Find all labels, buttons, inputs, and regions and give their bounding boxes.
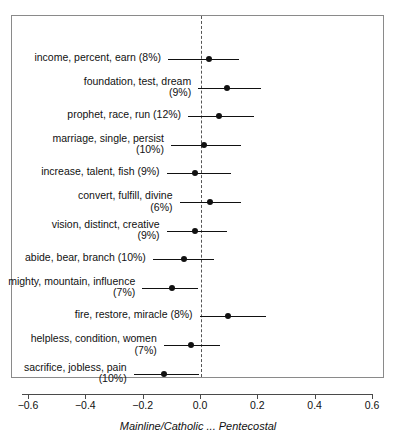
row-label: increase, talent, fish (9%) — [41, 167, 159, 179]
confidence-interval-line — [200, 316, 267, 317]
x-tick-label: 0.0 — [193, 399, 208, 411]
row-label: foundation, test, dream (9%) — [84, 75, 191, 98]
plot-area — [11, 15, 384, 378]
row-label: abide, bear, branch (10%) — [25, 252, 146, 264]
x-axis-title: Mainline/Catholic ... Pentecostal — [0, 420, 396, 432]
row-label: marriage, single, persist (10%) — [52, 132, 163, 155]
point-estimate-marker — [169, 285, 175, 291]
row-label: mighty, mountain, influence (7%) — [8, 275, 135, 298]
point-estimate-marker — [201, 142, 207, 148]
row-label: sacrifice, jobless, pain (10%) — [24, 361, 127, 384]
row-label: convert, fulfill, divine (6%) — [78, 190, 173, 213]
point-estimate-marker — [161, 371, 167, 377]
row-label: income, percent, earn (8%) — [34, 52, 161, 64]
point-estimate-marker — [206, 56, 212, 62]
x-tick-label: −0.2 — [132, 399, 153, 411]
row-label: fire, restore, miracle (8%) — [75, 310, 193, 322]
row-label: prophet, race, run (12%) — [67, 109, 181, 121]
x-tick-label: −0.6 — [18, 399, 39, 411]
zero-reference-line — [201, 16, 202, 377]
point-estimate-marker — [225, 313, 231, 319]
point-estimate-marker — [207, 199, 213, 205]
point-estimate-marker — [188, 342, 194, 348]
x-tick-label: 0.2 — [250, 399, 265, 411]
x-axis-line — [22, 394, 373, 395]
confidence-interval-line — [167, 173, 232, 174]
row-label: helpless, condition, women (7%) — [31, 333, 157, 356]
confidence-interval-line — [168, 59, 239, 60]
x-tick-label: −0.4 — [75, 399, 96, 411]
row-label: vision, distinct, creative (9%) — [52, 218, 160, 241]
coefficient-plot-figure: income, percent, earn (8%)foundation, te… — [0, 0, 396, 446]
x-tick-label: 0.4 — [307, 399, 322, 411]
x-tick-label: 0.6 — [365, 399, 380, 411]
point-estimate-marker — [224, 85, 230, 91]
point-estimate-marker — [216, 113, 222, 119]
point-estimate-marker — [192, 228, 198, 234]
point-estimate-marker — [192, 170, 198, 176]
point-estimate-marker — [181, 256, 187, 262]
